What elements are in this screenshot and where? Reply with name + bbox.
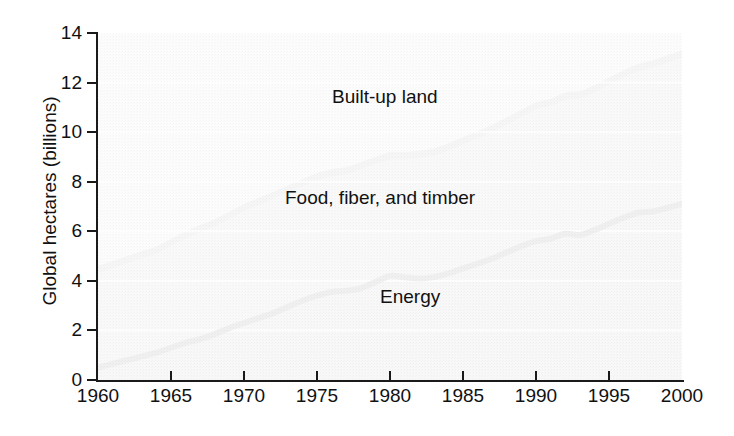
y-axis-line bbox=[96, 32, 98, 382]
x-tick-1995 bbox=[608, 371, 610, 381]
chart-figure: 0246810121419601965197019751980198519901… bbox=[0, 0, 734, 436]
x-tick-label-1980: 1980 bbox=[355, 385, 425, 407]
y-tick-4 bbox=[87, 280, 96, 282]
x-tick-label-1960: 1960 bbox=[63, 385, 133, 407]
x-tick-1980 bbox=[389, 371, 391, 381]
y-tick-8 bbox=[87, 181, 96, 183]
series-label-energy: Energy bbox=[380, 287, 440, 307]
y-tick-6 bbox=[87, 230, 96, 232]
x-tick-label-1965: 1965 bbox=[136, 385, 206, 407]
y-tick-10 bbox=[87, 131, 96, 133]
series-label-food-fiber-timber: Food, fiber, and timber bbox=[285, 188, 475, 208]
series-label-built-up-land: Built-up land bbox=[332, 87, 438, 107]
x-tick-label-1975: 1975 bbox=[282, 385, 352, 407]
x-tick-label-1985: 1985 bbox=[428, 385, 498, 407]
y-tick-0 bbox=[87, 379, 96, 381]
y-tick-12 bbox=[87, 82, 96, 84]
x-tick-1965 bbox=[170, 371, 172, 381]
x-tick-1970 bbox=[243, 371, 245, 381]
y-axis-title: Global hectares (billions) bbox=[39, 56, 61, 346]
y-tick-14 bbox=[87, 32, 96, 34]
x-tick-label-1990: 1990 bbox=[501, 385, 571, 407]
x-tick-1975 bbox=[316, 371, 318, 381]
x-tick-label-1970: 1970 bbox=[209, 385, 279, 407]
x-tick-label-1995: 1995 bbox=[574, 385, 644, 407]
x-tick-label-2000: 2000 bbox=[647, 385, 717, 407]
y-tick-2 bbox=[87, 329, 96, 331]
x-tick-1985 bbox=[462, 371, 464, 381]
y-tick-label-14: 14 bbox=[38, 23, 82, 42]
x-tick-1990 bbox=[535, 371, 537, 381]
